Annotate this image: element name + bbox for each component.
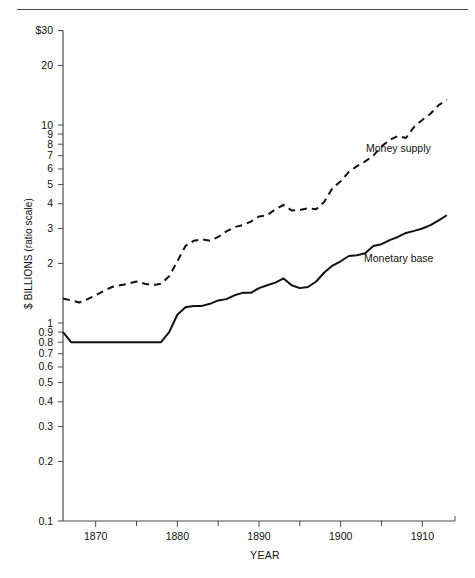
axes — [58, 31, 455, 527]
y-tick-label: 7 — [9, 150, 53, 160]
chart-figure: $ BILLIONS (ratio scale) $30201098765432… — [0, 0, 475, 578]
y-tick-label: 0.2 — [9, 456, 53, 466]
y-tick-label: 0.1 — [9, 516, 53, 526]
y-tick-label: 6 — [9, 163, 53, 173]
y-tick-label: 0.6 — [9, 361, 53, 371]
chart-canvas — [0, 0, 475, 578]
data-series — [63, 100, 447, 342]
series-line-monetary-base — [63, 215, 447, 342]
series-annotation-money-supply: Money supply — [366, 142, 431, 154]
x-tick-label: 1910 — [392, 531, 452, 541]
y-tick-label: 5 — [9, 179, 53, 189]
x-tick-label: 1880 — [147, 531, 207, 541]
y-tick-label: 0.8 — [9, 337, 53, 347]
y-tick-label: 0.7 — [9, 348, 53, 358]
y-tick-label: 4 — [9, 198, 53, 208]
x-tick-label: 1890 — [229, 531, 289, 541]
series-line-money-supply — [63, 100, 447, 303]
y-tick-label: 0.3 — [9, 421, 53, 431]
y-tick-label: 3 — [9, 223, 53, 233]
x-axis-title: YEAR — [205, 549, 325, 561]
y-tick-label: 8 — [9, 139, 53, 149]
x-tick-label: 1900 — [311, 531, 371, 541]
x-tick-label: 1870 — [66, 531, 126, 541]
y-tick-label: $30 — [9, 25, 53, 35]
series-annotation-monetary-base: Monetary base — [364, 252, 433, 264]
y-tick-label: 0.5 — [9, 377, 53, 387]
y-tick-label: 20 — [9, 60, 53, 70]
y-tick-label: 2 — [9, 258, 53, 268]
y-tick-label: 0.4 — [9, 396, 53, 406]
